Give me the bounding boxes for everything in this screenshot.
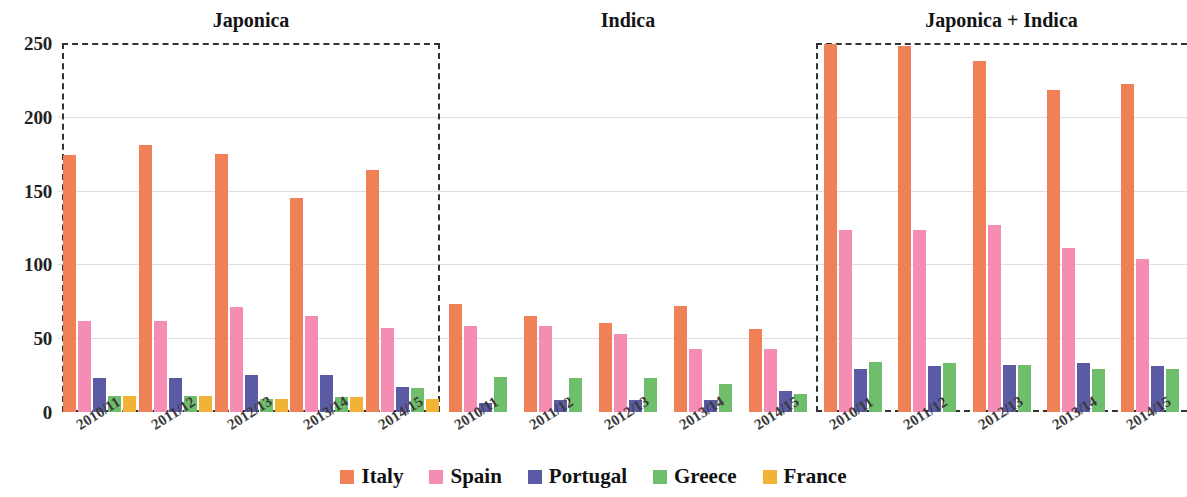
legend-item-italy[interactable]: Italy	[340, 466, 403, 487]
bar-france	[123, 396, 136, 412]
legend-item-portugal[interactable]: Portugal	[528, 466, 627, 487]
bar-spain	[988, 225, 1001, 412]
bar-france	[350, 397, 363, 412]
y-tick-label: 200	[24, 107, 52, 126]
legend-label: Italy	[361, 466, 403, 487]
bar-italy	[824, 44, 837, 412]
y-axis: 050100150200250	[0, 0, 58, 497]
y-tick-label: 100	[24, 255, 52, 274]
chart-legend: ItalySpainPortugalGreeceFrance	[0, 466, 1187, 487]
panel-title: Indica	[601, 10, 655, 30]
panel-title: Japonica + Indica	[925, 10, 1078, 30]
legend-item-france[interactable]: France	[763, 466, 847, 487]
bar-france	[275, 399, 288, 412]
legend-swatch-icon	[653, 470, 667, 484]
legend-swatch-icon	[763, 470, 777, 484]
bar-italy	[449, 304, 462, 412]
bar-italy	[290, 198, 303, 412]
bar-italy	[599, 323, 612, 412]
legend-item-spain[interactable]: Spain	[429, 466, 501, 487]
bar-italy	[63, 155, 76, 412]
legend-item-greece[interactable]: Greece	[653, 466, 737, 487]
bar-spain	[764, 349, 777, 412]
y-tick-label: 150	[24, 181, 52, 200]
legend-swatch-icon	[429, 470, 443, 484]
bar-spain	[78, 321, 91, 413]
bar-italy	[524, 316, 537, 412]
bar-spain	[539, 326, 552, 412]
bar-france	[426, 399, 439, 412]
legend-label: Greece	[674, 466, 737, 487]
legend-swatch-icon	[340, 470, 354, 484]
legend-label: Spain	[450, 466, 501, 487]
y-tick-label: 0	[43, 403, 52, 422]
y-tick-label: 250	[24, 34, 52, 53]
bar-spain	[230, 307, 243, 412]
legend-swatch-icon	[528, 470, 542, 484]
bar-italy	[749, 329, 762, 412]
bar-chart: 050100150200250 2010/112011/122012/13201…	[0, 0, 1187, 497]
legend-label: Portugal	[549, 466, 627, 487]
gridline	[58, 117, 1187, 118]
bar-spain	[913, 230, 926, 412]
bar-spain	[614, 334, 627, 412]
y-tick-label: 50	[33, 329, 52, 348]
bar-france	[199, 396, 212, 412]
panel-title: Japonica	[213, 10, 290, 30]
bar-spain	[381, 328, 394, 412]
bar-italy	[366, 170, 379, 412]
bar-spain	[305, 316, 318, 412]
bar-italy	[215, 154, 228, 412]
bar-italy	[1121, 84, 1134, 412]
bar-spain	[839, 230, 852, 412]
bar-italy	[973, 61, 986, 412]
bar-italy	[139, 145, 152, 412]
bar-italy	[674, 306, 687, 412]
bar-spain	[1062, 248, 1075, 412]
bar-spain	[154, 321, 167, 413]
bar-spain	[689, 349, 702, 412]
bar-italy	[898, 46, 911, 412]
legend-label: France	[784, 466, 847, 487]
bar-spain	[1136, 259, 1149, 413]
bar-spain	[464, 326, 477, 412]
bar-italy	[1047, 90, 1060, 412]
